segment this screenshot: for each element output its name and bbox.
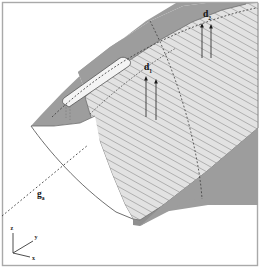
axis-label-x: x [32, 255, 35, 261]
axis-label-y: y [35, 234, 38, 240]
figure-container: d1 d2 ga z y x [0, 0, 260, 268]
axis-label-z: z [11, 225, 14, 231]
technical-diagram: d1 d2 ga z y x [0, 0, 260, 268]
